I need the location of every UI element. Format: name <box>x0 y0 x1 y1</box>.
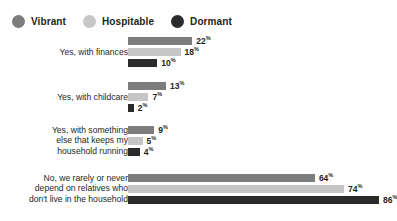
bar-row: 7% <box>128 93 184 101</box>
legend-item-label: Dormant <box>190 15 232 28</box>
bar-hospitable[interactable] <box>128 137 143 145</box>
circle-icon <box>171 15 184 28</box>
bar-dormant[interactable] <box>128 59 157 67</box>
bar-value-label: 7% <box>152 93 162 101</box>
bar-hospitable[interactable] <box>128 93 148 101</box>
bar-value-label: 9% <box>158 126 168 134</box>
bar-row: 13% <box>128 82 184 90</box>
bar-group-bars: 13%7%2% <box>128 82 184 115</box>
bar-group-bars: 22%18%10% <box>128 37 211 70</box>
bar-row: 9% <box>128 126 168 134</box>
bar-vibrant[interactable] <box>128 82 166 90</box>
category-label: Yes, with finances <box>4 47 128 57</box>
bar-row: 86% <box>128 196 397 204</box>
bar-group-bars: 64%74%86% <box>128 174 397 207</box>
bar-value-label: 13% <box>170 82 184 90</box>
legend-item-dormant[interactable]: Dormant <box>171 15 232 28</box>
legend-item-vibrant[interactable]: Vibrant <box>12 15 66 28</box>
bar-dormant[interactable] <box>128 196 379 204</box>
chart-legend: VibrantHospitableDormant <box>12 13 249 29</box>
bar-value-label: 86% <box>383 196 397 204</box>
legend-item-label: Vibrant <box>31 15 66 28</box>
bar-value-label: 64% <box>319 174 333 182</box>
bar-row: 18% <box>128 48 211 56</box>
bar-dormant[interactable] <box>128 148 140 156</box>
bar-vibrant[interactable] <box>128 126 154 134</box>
circle-icon <box>12 15 25 28</box>
bar-value-label: 18% <box>185 48 199 56</box>
bar-value-label: 4% <box>144 148 154 156</box>
bar-vibrant[interactable] <box>128 37 192 45</box>
bar-row: 64% <box>128 174 397 182</box>
legend-item-hospitable[interactable]: Hospitable <box>83 15 154 28</box>
bar-hospitable[interactable] <box>128 48 181 56</box>
bar-value-label: 74% <box>348 185 362 193</box>
bar-row: 74% <box>128 185 397 193</box>
category-label: Yes, with childcare <box>4 92 128 102</box>
bar-value-label: 2% <box>138 104 148 112</box>
category-label: No, we rarely or never depend on relativ… <box>4 173 128 204</box>
bar-row: 10% <box>128 59 211 67</box>
bar-value-label: 10% <box>161 59 175 67</box>
bar-row: 4% <box>128 148 168 156</box>
category-label: Yes, with something else that keeps my h… <box>4 125 128 156</box>
bar-hospitable[interactable] <box>128 185 344 193</box>
bar-row: 2% <box>128 104 184 112</box>
circle-icon <box>83 15 96 28</box>
bar-row: 5% <box>128 137 168 145</box>
legend-item-label: Hospitable <box>102 15 154 28</box>
bar-value-label: 5% <box>147 137 157 145</box>
bar-group-bars: 9%5%4% <box>128 126 168 159</box>
bar-row: 22% <box>128 37 211 45</box>
bar-value-label: 22% <box>196 37 210 45</box>
bar-vibrant[interactable] <box>128 174 315 182</box>
bar-dormant[interactable] <box>128 104 134 112</box>
bar-chart-plot: Yes, with finances22%18%10%Yes, with chi… <box>0 33 381 221</box>
